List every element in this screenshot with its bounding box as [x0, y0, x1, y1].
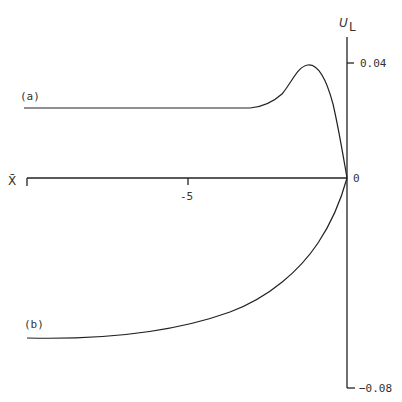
y-tick-label-0: 0 [353, 172, 360, 185]
x-axis-label: X̄ [8, 174, 16, 188]
chart-canvas: X̄ -5 U L 0.04 0 −0.08 (a) (b) [0, 0, 402, 402]
y-tick-label-minus-0.08: −0.08 [359, 382, 392, 395]
x-tick-label-minus5: -5 [180, 190, 193, 203]
curve-a-label: (a) [20, 90, 40, 103]
y-tick-label-0.04: 0.04 [360, 57, 387, 70]
y-axis-label-sub: L [349, 20, 356, 34]
y-axis-label-main: U [339, 16, 348, 30]
curve-b-label: (b) [24, 318, 44, 331]
curve-a [24, 65, 347, 178]
